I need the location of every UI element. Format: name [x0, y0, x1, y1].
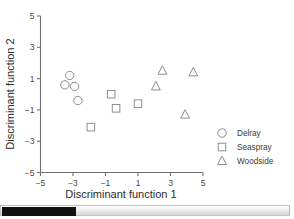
legend: DelraySeasprayWoodside: [218, 129, 274, 166]
data-point-seaspray: [112, 105, 120, 113]
legend-marker-delray: [218, 129, 226, 137]
legend-label-delray: Delray: [237, 129, 262, 138]
data-point-delray: [70, 82, 78, 90]
data-point-delray: [61, 81, 69, 89]
x-tick-label: 1: [136, 178, 141, 188]
data-point-delray: [66, 71, 74, 79]
legend-marker-woodside: [218, 156, 227, 164]
y-tick-label: −1: [25, 105, 35, 115]
data-point-woodside: [189, 67, 198, 75]
x-tick-label: −3: [68, 178, 78, 188]
data-point-delray: [74, 96, 82, 104]
y-tick-label: 1: [30, 74, 35, 84]
y-tick-label: 3: [30, 42, 35, 52]
legend-marker-seaspray: [218, 143, 226, 151]
data-point-seaspray: [134, 100, 142, 108]
data-point-woodside: [158, 66, 167, 74]
y-tick-label: 5: [30, 11, 35, 21]
axes: [40, 16, 203, 173]
x-tick-label: 3: [168, 178, 173, 188]
scrollbar-thumb[interactable]: [2, 207, 76, 216]
y-tick-label: −3: [25, 136, 35, 146]
y-axis-title: Discriminant function 2: [4, 38, 16, 149]
y-tick-label: −5: [25, 168, 35, 178]
legend-label-seaspray: Seaspray: [237, 143, 272, 152]
x-axis-title: Discriminant function 1: [65, 188, 176, 200]
horizontal-scrollbar[interactable]: [0, 205, 290, 216]
x-axis-ticks: −5−3−1135: [36, 173, 206, 188]
data-point-woodside: [181, 110, 190, 118]
data-point-seaspray: [107, 90, 115, 98]
scatter-plot-figure: 531−1−3−5 −5−3−1135 DelraySeasprayWoodsi…: [0, 0, 294, 200]
x-tick-label: −5: [36, 178, 46, 188]
y-axis-ticks: 531−1−3−5: [25, 11, 41, 178]
data-point-woodside: [151, 82, 160, 90]
x-tick-label: −1: [101, 178, 111, 188]
legend-label-woodside: Woodside: [237, 157, 274, 166]
data-points-layer: [61, 66, 198, 131]
x-tick-label: 5: [201, 178, 206, 188]
chart-canvas: 531−1−3−5 −5−3−1135 DelraySeasprayWoodsi…: [0, 0, 294, 200]
data-point-seaspray: [87, 123, 95, 131]
